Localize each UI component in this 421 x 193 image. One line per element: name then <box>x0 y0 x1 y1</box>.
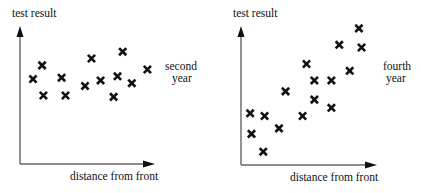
data-point-x-marker <box>303 60 310 67</box>
data-point-x-marker <box>88 55 95 62</box>
scatter-charts: test result distance from front second y… <box>0 0 421 193</box>
series-marks <box>29 48 151 100</box>
data-point-x-marker <box>58 74 65 81</box>
x-axis-arrowhead <box>365 162 377 169</box>
data-point-x-marker <box>358 44 365 51</box>
annotation-line-2: year <box>172 72 192 85</box>
data-point-x-marker <box>346 67 353 74</box>
annotation-line-1: second <box>165 60 197 72</box>
data-point-x-marker <box>97 77 104 84</box>
data-point-x-marker <box>247 110 254 117</box>
x-axis-label: distance from front <box>290 171 379 183</box>
data-point-x-marker <box>328 104 335 111</box>
y-axis-arrowhead <box>238 26 245 37</box>
data-point-x-marker <box>282 88 289 95</box>
data-point-x-marker <box>114 73 121 80</box>
data-point-x-marker <box>260 148 267 155</box>
chart-panel-second-year: test result distance from front second y… <box>12 7 197 182</box>
series-marks <box>247 25 366 156</box>
data-point-x-marker <box>328 77 335 84</box>
y-axis-arrowhead <box>17 26 24 37</box>
annotation-line-2: year <box>386 72 406 85</box>
data-point-x-marker <box>261 112 268 119</box>
data-point-x-marker <box>355 25 362 32</box>
y-axis-label: test result <box>12 7 57 19</box>
data-point-x-marker <box>275 125 282 132</box>
x-axis-arrowhead <box>143 161 155 168</box>
data-point-x-marker <box>311 96 318 103</box>
x-axis-label: distance from front <box>70 170 159 182</box>
data-point-x-marker <box>39 62 46 69</box>
data-point-x-marker <box>110 93 117 100</box>
data-point-x-marker <box>40 92 47 99</box>
data-point-x-marker <box>62 92 69 99</box>
data-point-x-marker <box>29 75 36 82</box>
data-point-x-marker <box>248 130 255 137</box>
data-point-x-marker <box>144 66 151 73</box>
data-point-x-marker <box>336 41 343 48</box>
chart-panel-fourth-year: test result distance from front fourth y… <box>233 7 411 183</box>
data-point-x-marker <box>128 80 135 87</box>
annotation-line-1: fourth <box>383 60 411 72</box>
y-axis-label: test result <box>233 7 278 19</box>
data-point-x-marker <box>311 77 318 84</box>
data-point-x-marker <box>119 48 126 55</box>
data-point-x-marker <box>299 112 306 119</box>
data-point-x-marker <box>81 82 88 89</box>
